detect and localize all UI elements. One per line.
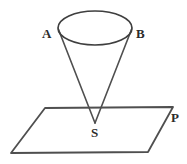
- label-p: P: [171, 111, 179, 124]
- cone-rim-ellipse: [58, 11, 132, 45]
- geometry-diagram: A B S P: [0, 0, 187, 164]
- label-s: S: [91, 126, 98, 139]
- label-b: B: [136, 27, 145, 40]
- label-a: A: [42, 27, 51, 40]
